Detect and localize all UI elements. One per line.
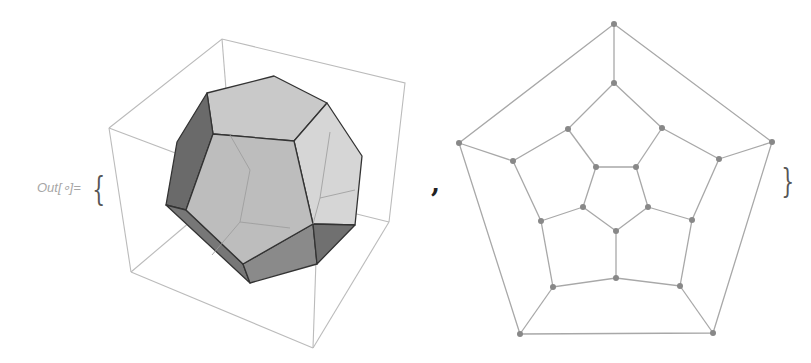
dodecahedron-3d-graphic[interactable] [0, 0, 811, 363]
dodecahedron [166, 76, 362, 283]
